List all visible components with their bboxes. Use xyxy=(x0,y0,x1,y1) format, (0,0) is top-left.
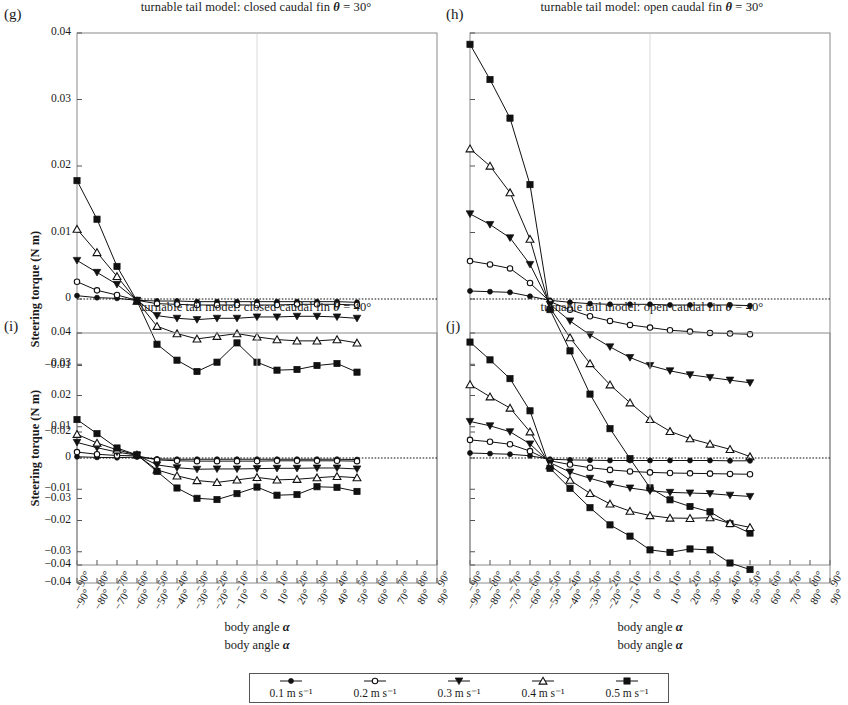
data-point-filled-square xyxy=(507,376,513,382)
data-point-open-up-triangle xyxy=(173,472,181,479)
data-point-open-up-triangle xyxy=(153,466,161,473)
panel-title-h: turnable tail model: open caudal fin θ =… xyxy=(466,0,838,15)
data-point-open-circle xyxy=(487,262,492,267)
data-point-filled-circle xyxy=(488,451,493,456)
data-point-open-circle xyxy=(647,325,652,330)
data-point-filled-square xyxy=(74,178,80,184)
data-point-open-circle xyxy=(294,458,299,463)
data-point-filled-circle xyxy=(508,452,513,457)
y-tick-label: 0.03 xyxy=(23,92,71,104)
data-point-open-circle xyxy=(467,258,472,263)
data-point-open-up-triangle xyxy=(333,336,341,343)
series-2 xyxy=(467,258,752,337)
data-point-filled-square xyxy=(94,216,100,222)
data-point-open-up-triangle xyxy=(726,446,734,453)
data-point-open-up-triangle xyxy=(526,428,534,435)
series-line xyxy=(77,420,357,500)
data-point-filled-down-triangle xyxy=(233,466,241,473)
data-point-open-up-triangle xyxy=(213,479,221,486)
data-point-filled-square xyxy=(214,496,220,502)
data-point-open-circle xyxy=(607,467,612,472)
data-point-filled-down-triangle xyxy=(506,429,514,436)
y-tick-label: 0.02 xyxy=(23,158,71,170)
data-point-open-circle xyxy=(667,328,672,333)
data-point-open-up-triangle xyxy=(606,381,614,388)
legend-item-label: 0.1 m s⁻¹ xyxy=(249,686,333,700)
data-point-open-up-triangle xyxy=(746,453,754,460)
data-point-filled-down-triangle xyxy=(586,332,594,339)
series-4 xyxy=(73,431,361,486)
data-point-filled-square xyxy=(707,547,713,553)
data-point-open-up-triangle xyxy=(686,515,694,522)
data-point-open-circle xyxy=(487,439,492,444)
panel-letter-g: (g) xyxy=(4,6,22,23)
data-point-filled-circle xyxy=(75,293,80,298)
data-point-filled-square xyxy=(527,182,533,188)
data-point-filled-down-triangle xyxy=(173,465,181,472)
data-point-filled-circle xyxy=(75,454,80,459)
data-point-filled-square xyxy=(74,416,80,422)
data-point-filled-square xyxy=(354,488,360,494)
series-1 xyxy=(75,454,360,462)
panel-title-j: turnable tail model: open caudal fin θ =… xyxy=(466,300,838,315)
data-point-filled-circle xyxy=(728,458,733,463)
data-point-filled-circle xyxy=(548,457,553,462)
series-line xyxy=(77,434,357,482)
data-point-filled-square xyxy=(194,495,200,501)
data-point-open-circle xyxy=(587,465,592,470)
series-line xyxy=(470,385,750,528)
series-line xyxy=(77,229,357,343)
data-point-filled-square xyxy=(274,492,280,498)
data-point-open-up-triangle xyxy=(546,462,554,469)
data-point-open-up-triangle xyxy=(293,337,301,344)
data-point-open-circle xyxy=(114,292,119,297)
data-point-open-up-triangle xyxy=(626,507,634,514)
series-1 xyxy=(468,451,753,464)
data-point-filled-down-triangle xyxy=(566,469,574,476)
data-point-open-up-triangle xyxy=(293,476,301,483)
data-point-open-circle xyxy=(74,449,79,454)
data-point-open-up-triangle xyxy=(213,333,221,340)
data-point-filled-square xyxy=(667,497,673,503)
series-line xyxy=(470,44,750,533)
data-point-open-up-triangle xyxy=(273,336,281,343)
data-point-open-circle xyxy=(314,458,319,463)
data-point-open-up-triangle xyxy=(173,330,181,337)
series-2 xyxy=(74,449,359,464)
data-point-filled-down-triangle xyxy=(626,354,634,361)
series-line xyxy=(77,442,357,469)
data-point-open-circle xyxy=(627,469,632,474)
data-point-filled-square xyxy=(254,484,260,490)
data-point-filled-down-triangle xyxy=(333,465,341,472)
data-point-open-up-triangle xyxy=(566,476,574,483)
data-point-open-circle xyxy=(134,453,139,458)
data-point-filled-circle xyxy=(315,457,320,462)
data-point-open-up-triangle xyxy=(746,524,754,531)
data-point-filled-down-triangle xyxy=(273,465,281,472)
data-point-filled-square xyxy=(254,359,260,365)
data-point-filled-circle xyxy=(608,458,613,463)
data-point-filled-circle xyxy=(468,289,473,294)
data-point-open-up-triangle xyxy=(666,428,674,435)
data-point-filled-square xyxy=(354,369,360,375)
data-point-open-circle xyxy=(527,280,532,285)
data-point-filled-circle xyxy=(115,455,120,460)
data-point-filled-circle xyxy=(295,457,300,462)
data-point-filled-square xyxy=(174,485,180,491)
data-point-filled-square xyxy=(467,41,473,47)
legend-item-label: 0.4 m s⁻¹ xyxy=(501,686,585,700)
data-point-open-circle xyxy=(647,470,652,475)
data-point-open-circle xyxy=(94,452,99,457)
data-point-filled-down-triangle xyxy=(93,269,101,276)
data-point-open-circle xyxy=(334,458,339,463)
data-point-open-circle xyxy=(707,471,712,476)
data-point-open-circle xyxy=(547,458,552,463)
data-point-filled-square xyxy=(194,368,200,374)
series-line xyxy=(77,452,357,461)
panel-letter-i: (i) xyxy=(4,318,18,335)
data-point-filled-square xyxy=(294,366,300,372)
data-point-filled-down-triangle xyxy=(646,362,654,369)
data-point-open-up-triangle xyxy=(486,162,494,169)
data-point-filled-down-triangle xyxy=(746,493,754,500)
data-point-filled-circle xyxy=(648,458,653,463)
